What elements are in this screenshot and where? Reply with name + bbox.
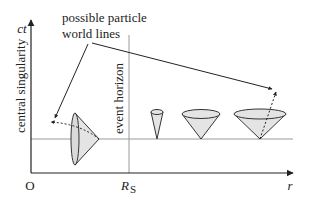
ct-axis-label: ct — [17, 21, 27, 36]
world-lines-label-line2: world lines — [62, 26, 120, 41]
central-singularity-label: central singularity — [13, 38, 28, 133]
schwarzschild-radius-label: R S — [120, 178, 136, 195]
world-lines-label-line1: possible particle — [62, 10, 147, 25]
event-horizon-label: event horizon — [111, 62, 126, 134]
light-cone-medium — [182, 110, 220, 140]
light-cone-far — [234, 92, 286, 139]
pointer-line-left — [55, 44, 88, 118]
svg-text:S: S — [130, 183, 136, 195]
svg-text:R: R — [120, 178, 129, 193]
origin-label: O — [25, 178, 34, 193]
light-cone-near-horizon — [151, 110, 163, 140]
schwarzschild-light-cone-diagram: ct r O R S central singularity event hor… — [0, 0, 309, 200]
r-axis-label: r — [287, 178, 293, 193]
